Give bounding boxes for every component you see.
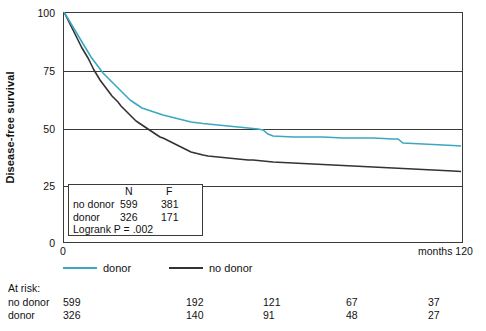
y-tick-25: 25 [27, 180, 55, 192]
inset-row-1-name: no donor [73, 198, 114, 210]
inset-header-f: F [166, 185, 172, 197]
inset-header-n: N [125, 185, 133, 197]
at-risk-row-label: no donor [8, 296, 49, 308]
inset-row-1-f: 381 [161, 198, 179, 210]
at-risk-value: 67 [346, 296, 358, 308]
x-tick-end: months 120 [418, 245, 473, 257]
at-risk-value: 192 [186, 296, 204, 308]
curve-donor [64, 12, 461, 146]
y-tick-75: 75 [27, 65, 55, 77]
curve-no-donor [64, 12, 461, 172]
legend-item-no-donor: no donor [169, 262, 252, 274]
inset-row-2-n: 326 [120, 211, 138, 223]
at-risk-value: 599 [63, 296, 81, 308]
at-risk-value: 326 [63, 309, 81, 321]
at-risk-title: At risk: [8, 282, 40, 294]
legend-item-donor: donor [63, 262, 131, 274]
legend-swatch-donor-icon [63, 267, 97, 269]
at-risk-row-donor: donor 326 140 91 48 27 [8, 309, 478, 322]
y-axis-title: Disease-free survival [4, 12, 20, 243]
x-axis-labels: 0 months 120 [0, 245, 486, 259]
at-risk-table: At risk: no donor 599 192 121 67 37 dono… [8, 282, 478, 324]
y-tick-100: 100 [27, 7, 55, 19]
at-risk-value: 140 [186, 309, 204, 321]
at-risk-row-no-donor: no donor 599 192 121 67 37 [8, 296, 478, 309]
chart-figure: Disease-free survival 100 75 50 25 0 no … [0, 0, 486, 331]
inset-row-2-name: donor [73, 211, 100, 223]
inset-row-1-n: 599 [120, 198, 138, 210]
legend-label-no-donor: no donor [209, 262, 252, 274]
inset-row-2-f: 171 [161, 211, 179, 223]
inset-logrank: Logrank P = .002 [73, 223, 153, 235]
y-tick-50: 50 [27, 123, 55, 135]
at-risk-value: 37 [428, 296, 440, 308]
legend: donor no donor [63, 262, 363, 278]
at-risk-value: 121 [263, 296, 281, 308]
legend-swatch-no-donor-icon [169, 267, 203, 269]
at-risk-value: 48 [346, 309, 358, 321]
at-risk-value: 91 [263, 309, 275, 321]
inset-stats-box: no donor N F 599 381 donor 326 171 Logra… [68, 184, 203, 236]
legend-label-donor: donor [103, 262, 131, 274]
x-tick-0: 0 [60, 245, 66, 257]
at-risk-row-label: donor [8, 309, 35, 321]
at-risk-value: 27 [428, 309, 440, 321]
